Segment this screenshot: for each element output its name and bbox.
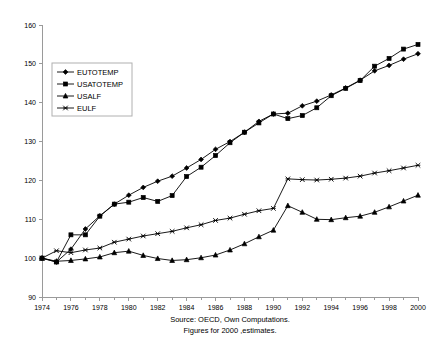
data-point-marker xyxy=(98,246,103,251)
x-tick-label: 1998 xyxy=(381,304,397,311)
data-point-marker xyxy=(401,57,406,62)
data-point-marker xyxy=(300,103,305,108)
legend-label: USALF xyxy=(77,92,102,101)
x-axis-ticks: 1974197619781980198219841986198819901992… xyxy=(34,297,426,311)
data-point-marker xyxy=(156,199,160,203)
data-point-marker xyxy=(185,175,189,179)
data-point-marker xyxy=(98,214,102,218)
data-point-marker xyxy=(83,233,87,237)
data-point-marker xyxy=(271,228,276,233)
y-tick-label: 160 xyxy=(24,22,36,29)
x-tick-label: 1984 xyxy=(179,304,195,311)
data-point-marker xyxy=(358,174,363,179)
data-point-marker xyxy=(155,231,160,236)
chart-legend[interactable]: EUTOTEMPUSATOTEMPUSALFEULF xyxy=(52,63,132,116)
data-point-marker xyxy=(402,47,406,51)
data-point-marker xyxy=(285,111,290,116)
x-tick-label: 1988 xyxy=(237,304,253,311)
y-tick-label: 140 xyxy=(24,99,36,106)
data-point-marker xyxy=(416,51,421,56)
data-point-marker xyxy=(242,130,246,134)
data-point-marker xyxy=(112,202,116,206)
legend-label: EUTOTEMP xyxy=(77,68,119,77)
data-point-marker xyxy=(242,241,247,246)
data-point-marker xyxy=(126,237,131,242)
data-point-marker xyxy=(387,56,391,60)
data-point-marker xyxy=(387,63,392,68)
data-point-marker xyxy=(170,174,175,179)
data-point-marker xyxy=(373,64,377,68)
data-point-marker xyxy=(271,206,276,211)
data-point-marker xyxy=(372,171,377,176)
chart-container: 90100110120130140150160 1974197619781980… xyxy=(0,0,439,347)
x-tick-label: 2000 xyxy=(410,304,426,311)
y-tick-label: 150 xyxy=(24,60,36,67)
y-tick-label: 110 xyxy=(25,216,36,223)
data-point-marker xyxy=(285,203,290,208)
data-point-marker xyxy=(358,79,362,83)
data-point-marker xyxy=(329,94,333,98)
x-tick-label: 1994 xyxy=(323,304,339,311)
data-point-marker xyxy=(257,208,262,213)
data-point-marker xyxy=(257,121,261,125)
data-point-marker xyxy=(344,86,348,90)
data-point-marker xyxy=(416,193,421,198)
data-point-marker xyxy=(343,176,348,181)
legend-label: EULF xyxy=(77,104,97,113)
data-point-marker xyxy=(170,194,174,198)
data-point-marker xyxy=(64,82,68,86)
data-point-marker xyxy=(286,117,290,121)
line-chart-plot: 90100110120130140150160 1974197619781980… xyxy=(0,0,439,347)
caption-line-2: Figures for 2000 ,estimates. xyxy=(184,326,277,335)
data-point-marker xyxy=(228,216,233,221)
y-tick-label: 120 xyxy=(24,177,36,184)
chart-caption: Source: OECD, Own Computations.Figures f… xyxy=(170,315,290,335)
data-point-marker xyxy=(416,42,420,46)
data-point-marker xyxy=(315,106,319,110)
data-point-marker xyxy=(314,178,319,183)
data-point-marker xyxy=(112,240,117,245)
y-tick-label: 100 xyxy=(24,255,36,262)
data-point-marker xyxy=(184,226,189,231)
data-point-marker xyxy=(141,234,146,239)
data-point-marker xyxy=(286,177,291,182)
y-tick-label: 90 xyxy=(28,294,36,301)
series-eulf xyxy=(40,163,421,260)
data-point-marker xyxy=(126,193,131,198)
data-point-marker xyxy=(199,222,204,227)
x-tick-label: 1980 xyxy=(121,304,137,311)
data-point-marker xyxy=(329,177,334,182)
data-point-marker xyxy=(155,179,160,184)
data-point-marker xyxy=(372,68,377,73)
caption-line-1: Source: OECD, Own Computations. xyxy=(170,315,290,324)
legend-label: USATOTEMP xyxy=(77,80,123,89)
data-point-marker xyxy=(300,114,304,118)
x-tick-label: 1978 xyxy=(92,304,108,311)
data-point-marker xyxy=(271,112,275,116)
data-point-marker xyxy=(141,185,146,190)
data-point-marker xyxy=(199,165,203,169)
data-point-marker xyxy=(300,177,305,182)
data-point-marker xyxy=(416,163,421,168)
data-point-marker xyxy=(127,200,131,204)
data-point-marker xyxy=(242,212,247,217)
data-point-marker xyxy=(170,229,175,234)
x-tick-label: 1992 xyxy=(295,304,311,311)
y-tick-label: 130 xyxy=(24,138,36,145)
x-tick-label: 1976 xyxy=(63,304,79,311)
x-tick-label: 1982 xyxy=(150,304,166,311)
data-point-marker xyxy=(126,249,131,254)
x-tick-label: 1986 xyxy=(208,304,224,311)
data-point-marker xyxy=(401,166,406,171)
data-point-marker xyxy=(213,218,218,223)
data-point-marker xyxy=(54,248,59,253)
y-axis-ticks: 90100110120130140150160 xyxy=(24,22,42,301)
data-point-marker xyxy=(69,233,73,237)
data-point-marker xyxy=(83,248,88,253)
data-point-marker xyxy=(228,141,232,145)
data-point-marker xyxy=(141,196,145,200)
x-tick-label: 1974 xyxy=(34,304,50,311)
series-usalf xyxy=(40,193,421,264)
x-tick-label: 1996 xyxy=(352,304,368,311)
data-point-marker xyxy=(387,168,392,173)
